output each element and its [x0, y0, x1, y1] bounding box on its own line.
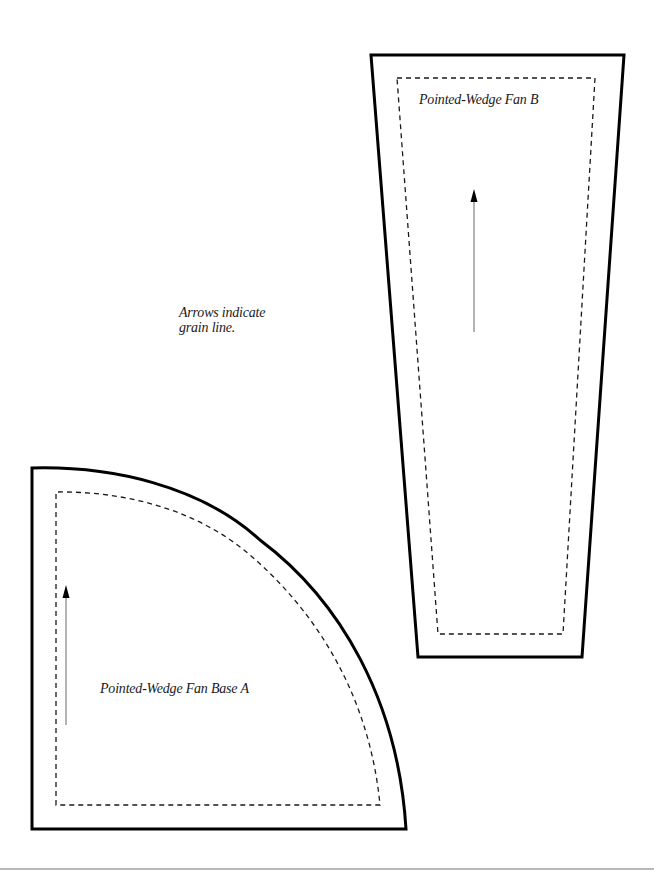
- arrow-up-icon: [63, 585, 70, 725]
- fan-base-a-cut-line: [32, 468, 406, 829]
- page-bottom-rule: [0, 868, 654, 870]
- fan-b-seam-line: [397, 78, 595, 634]
- pattern-diagram: [0, 0, 654, 873]
- fan-base-a-label: Pointed-Wedge Fan Base A: [100, 681, 249, 697]
- piece-fan-b: [371, 55, 624, 657]
- pattern-sheet: Pointed-Wedge Fan B Arrows indicate grai…: [0, 0, 654, 873]
- grain-line-note: Arrows indicate grain line.: [179, 305, 299, 335]
- fan-b-cut-line: [371, 55, 624, 657]
- note-line-1: Arrows indicate: [179, 305, 299, 320]
- piece-fan-base-a: [32, 468, 406, 829]
- note-line-2: grain line.: [179, 320, 299, 335]
- fan-base-a-seam-line: [56, 492, 380, 805]
- fan-b-label: Pointed-Wedge Fan B: [419, 92, 538, 108]
- arrow-up-icon: [471, 189, 478, 332]
